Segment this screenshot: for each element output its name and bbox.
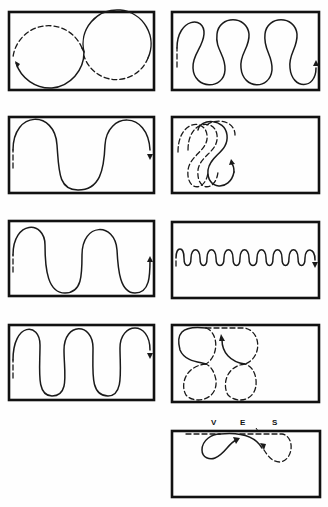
arrow-icon xyxy=(147,256,153,262)
diagram-canvas: V E S xyxy=(0,0,328,507)
panel-ves-loops: V E S xyxy=(172,418,320,497)
label-v: V xyxy=(211,418,217,427)
panel-serpentine-wide xyxy=(9,117,154,193)
panel-overlapping-loops xyxy=(172,117,319,193)
panel-frame xyxy=(9,117,154,193)
arrow-icon xyxy=(219,334,225,341)
panel-serpentine-medium xyxy=(9,221,154,296)
arrow-icon xyxy=(312,262,318,268)
label-s: S xyxy=(272,418,278,427)
panel-frame xyxy=(172,431,320,497)
arrow-icon xyxy=(229,159,235,165)
panel-frame xyxy=(9,325,154,400)
panel-small-wave xyxy=(172,222,319,298)
panel-serpentine-narrow xyxy=(172,12,319,90)
label-e: E xyxy=(240,418,246,427)
panel-two-circles xyxy=(9,10,154,90)
arrow-icon xyxy=(147,154,153,160)
panel-frame xyxy=(172,117,319,193)
panel-frame xyxy=(9,12,154,90)
panel-four-circles xyxy=(172,325,319,402)
arrow-icon xyxy=(147,353,153,359)
panel-serpentine-three xyxy=(9,325,154,400)
panel-frame xyxy=(172,222,319,298)
